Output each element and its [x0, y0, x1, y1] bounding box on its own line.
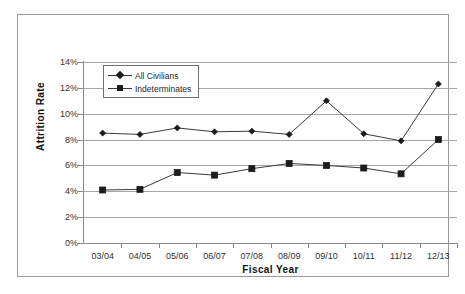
data-point[interactable]: [100, 187, 106, 193]
x-axis-tick: [271, 244, 272, 248]
x-axis-tick: [420, 244, 421, 248]
data-point[interactable]: [174, 125, 180, 131]
data-point[interactable]: [212, 172, 218, 178]
legend-label: Indeterminates: [132, 83, 191, 95]
x-axis-tick-label: 12/13: [416, 251, 460, 261]
data-point[interactable]: [435, 137, 441, 143]
legend: All Civilians Indeterminates: [103, 65, 199, 98]
data-point[interactable]: [100, 130, 106, 136]
chart-frame: Attrition Rate 14%12%10%8%6%4%2%0% 03/04…: [17, 14, 449, 277]
y-axis-tick-label: 8%: [48, 136, 78, 145]
data-point[interactable]: [212, 129, 218, 135]
data-point[interactable]: [174, 170, 180, 176]
legend-marker-diamond-icon: [108, 70, 132, 82]
y-axis-tick-label: 10%: [48, 110, 78, 119]
y-axis-tick-label: 2%: [48, 213, 78, 222]
data-point[interactable]: [435, 81, 441, 87]
data-point[interactable]: [137, 186, 143, 192]
x-axis-tick: [308, 244, 309, 248]
x-axis-tick: [196, 244, 197, 248]
series-line-indeterminates: [103, 140, 439, 190]
data-point[interactable]: [249, 166, 255, 172]
legend-marker-square-icon: [108, 83, 132, 95]
legend-label: All Civilians: [132, 70, 178, 82]
x-axis-tick: [159, 244, 160, 248]
x-axis-tick: [121, 244, 122, 248]
x-axis-tick: [382, 244, 383, 248]
x-axis-tick: [345, 244, 346, 248]
data-point[interactable]: [249, 128, 255, 134]
x-axis-title: Fiscal Year: [83, 264, 458, 275]
legend-item-indeterminates[interactable]: Indeterminates: [108, 82, 194, 95]
x-axis-tick: [457, 244, 458, 248]
data-point[interactable]: [361, 165, 367, 171]
y-axis-tick-label: 12%: [48, 84, 78, 93]
x-axis-tick: [233, 244, 234, 248]
data-point[interactable]: [323, 162, 329, 168]
data-point[interactable]: [398, 171, 404, 177]
data-point[interactable]: [137, 131, 143, 137]
legend-item-all-civilians[interactable]: All Civilians: [108, 69, 194, 82]
y-axis-tick-label: 4%: [48, 187, 78, 196]
y-axis-tick-label: 0%: [48, 239, 78, 248]
y-axis-tick-label: 14%: [48, 58, 78, 67]
y-axis-tick-labels: 14%12%10%8%6%4%2%0%: [42, 15, 78, 278]
y-axis-tick-label: 6%: [48, 161, 78, 170]
data-point[interactable]: [286, 160, 292, 166]
gridline: [84, 243, 457, 244]
data-point[interactable]: [398, 138, 404, 144]
